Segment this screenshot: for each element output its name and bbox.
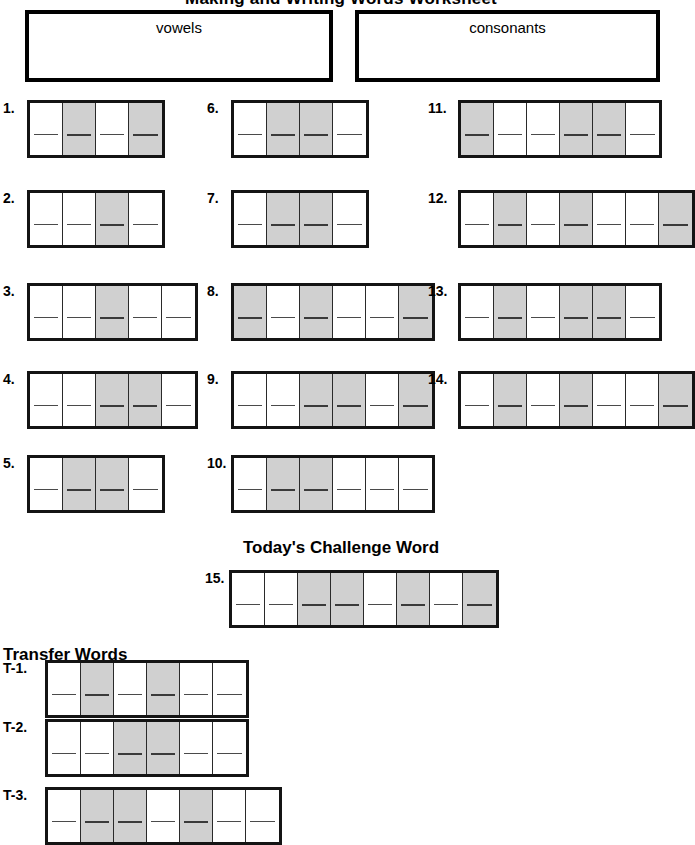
letter-cell-plain[interactable] bbox=[267, 374, 300, 426]
letter-cell-plain[interactable] bbox=[333, 103, 366, 155]
letter-cell-plain[interactable] bbox=[232, 573, 265, 625]
letter-cell-shaded[interactable] bbox=[560, 286, 593, 338]
letter-cell-shaded[interactable] bbox=[300, 374, 333, 426]
letter-cell-plain[interactable] bbox=[30, 458, 63, 510]
letter-cell-plain[interactable] bbox=[30, 193, 63, 245]
letter-cell-shaded[interactable] bbox=[300, 458, 333, 510]
letter-cell-shaded[interactable] bbox=[129, 374, 162, 426]
letter-cell-plain[interactable] bbox=[267, 286, 300, 338]
letter-cell-plain[interactable] bbox=[430, 573, 463, 625]
letter-cell-shaded[interactable] bbox=[461, 103, 494, 155]
letter-cell-plain[interactable] bbox=[213, 790, 246, 842]
letter-cell-plain[interactable] bbox=[162, 286, 195, 338]
word-box-8[interactable] bbox=[231, 283, 435, 341]
letter-cell-plain[interactable] bbox=[234, 103, 267, 155]
letter-cell-shaded[interactable] bbox=[267, 458, 300, 510]
letter-cell-plain[interactable] bbox=[30, 374, 63, 426]
letter-cell-shaded[interactable] bbox=[81, 663, 114, 715]
sort-box-consonants[interactable]: consonants bbox=[355, 10, 660, 82]
letter-cell-plain[interactable] bbox=[399, 458, 432, 510]
letter-cell-plain[interactable] bbox=[626, 286, 659, 338]
letter-cell-shaded[interactable] bbox=[298, 573, 331, 625]
word-box-11[interactable] bbox=[458, 100, 662, 158]
word-box-2[interactable] bbox=[27, 190, 165, 248]
letter-cell-plain[interactable] bbox=[246, 790, 279, 842]
letter-cell-plain[interactable] bbox=[213, 722, 246, 774]
letter-cell-shaded[interactable] bbox=[333, 374, 366, 426]
letter-cell-shaded[interactable] bbox=[331, 573, 364, 625]
word-box-t-3[interactable] bbox=[45, 787, 282, 845]
word-box-9[interactable] bbox=[231, 371, 435, 429]
letter-cell-shaded[interactable] bbox=[659, 374, 692, 426]
letter-cell-plain[interactable] bbox=[626, 103, 659, 155]
letter-cell-shaded[interactable] bbox=[96, 193, 129, 245]
letter-cell-shaded[interactable] bbox=[114, 722, 147, 774]
letter-cell-shaded[interactable] bbox=[300, 193, 333, 245]
word-box-t-1[interactable] bbox=[45, 660, 249, 718]
letter-cell-shaded[interactable] bbox=[593, 103, 626, 155]
letter-cell-shaded[interactable] bbox=[397, 573, 430, 625]
letter-cell-shaded[interactable] bbox=[267, 193, 300, 245]
letter-cell-plain[interactable] bbox=[234, 458, 267, 510]
letter-cell-shaded[interactable] bbox=[96, 286, 129, 338]
letter-cell-shaded[interactable] bbox=[129, 103, 162, 155]
letter-cell-shaded[interactable] bbox=[560, 374, 593, 426]
word-box-7[interactable] bbox=[231, 190, 369, 248]
letter-cell-plain[interactable] bbox=[48, 790, 81, 842]
letter-cell-shaded[interactable] bbox=[463, 573, 496, 625]
letter-cell-shaded[interactable] bbox=[593, 286, 626, 338]
letter-cell-plain[interactable] bbox=[147, 790, 180, 842]
letter-cell-plain[interactable] bbox=[366, 374, 399, 426]
letter-cell-shaded[interactable] bbox=[63, 458, 96, 510]
letter-cell-plain[interactable] bbox=[234, 193, 267, 245]
letter-cell-shaded[interactable] bbox=[659, 193, 692, 245]
word-box-12[interactable] bbox=[458, 190, 695, 248]
letter-cell-shaded[interactable] bbox=[147, 722, 180, 774]
word-box-10[interactable] bbox=[231, 455, 435, 513]
letter-cell-plain[interactable] bbox=[96, 103, 129, 155]
letter-cell-plain[interactable] bbox=[81, 722, 114, 774]
letter-cell-shaded[interactable] bbox=[234, 286, 267, 338]
letter-cell-plain[interactable] bbox=[162, 374, 195, 426]
letter-cell-plain[interactable] bbox=[63, 193, 96, 245]
letter-cell-shaded[interactable] bbox=[63, 103, 96, 155]
letter-cell-plain[interactable] bbox=[593, 374, 626, 426]
letter-cell-plain[interactable] bbox=[593, 193, 626, 245]
letter-cell-shaded[interactable] bbox=[494, 286, 527, 338]
word-box-1[interactable] bbox=[27, 100, 165, 158]
letter-cell-plain[interactable] bbox=[366, 286, 399, 338]
letter-cell-plain[interactable] bbox=[527, 286, 560, 338]
letter-cell-plain[interactable] bbox=[114, 663, 147, 715]
letter-cell-shaded[interactable] bbox=[81, 790, 114, 842]
letter-cell-plain[interactable] bbox=[333, 193, 366, 245]
letter-cell-plain[interactable] bbox=[180, 663, 213, 715]
letter-cell-plain[interactable] bbox=[461, 286, 494, 338]
letter-cell-plain[interactable] bbox=[527, 193, 560, 245]
letter-cell-plain[interactable] bbox=[626, 193, 659, 245]
word-box-6[interactable] bbox=[231, 100, 369, 158]
letter-cell-plain[interactable] bbox=[333, 286, 366, 338]
letter-cell-plain[interactable] bbox=[213, 663, 246, 715]
letter-cell-shaded[interactable] bbox=[147, 663, 180, 715]
letter-cell-shaded[interactable] bbox=[300, 286, 333, 338]
letter-cell-plain[interactable] bbox=[129, 458, 162, 510]
letter-cell-plain[interactable] bbox=[265, 573, 298, 625]
letter-cell-plain[interactable] bbox=[527, 374, 560, 426]
letter-cell-shaded[interactable] bbox=[96, 374, 129, 426]
word-box-5[interactable] bbox=[27, 455, 165, 513]
letter-cell-shaded[interactable] bbox=[560, 193, 593, 245]
letter-cell-plain[interactable] bbox=[461, 374, 494, 426]
letter-cell-plain[interactable] bbox=[48, 722, 81, 774]
letter-cell-plain[interactable] bbox=[494, 103, 527, 155]
letter-cell-plain[interactable] bbox=[30, 103, 63, 155]
letter-cell-plain[interactable] bbox=[48, 663, 81, 715]
word-box-t-2[interactable] bbox=[45, 719, 249, 777]
letter-cell-plain[interactable] bbox=[63, 374, 96, 426]
letter-cell-shaded[interactable] bbox=[300, 103, 333, 155]
word-box-13[interactable] bbox=[458, 283, 662, 341]
letter-cell-plain[interactable] bbox=[129, 286, 162, 338]
letter-cell-shaded[interactable] bbox=[114, 790, 147, 842]
word-box-challenge-15[interactable] bbox=[229, 570, 499, 628]
letter-cell-shaded[interactable] bbox=[267, 103, 300, 155]
sort-box-vowels[interactable]: vowels bbox=[25, 10, 333, 82]
